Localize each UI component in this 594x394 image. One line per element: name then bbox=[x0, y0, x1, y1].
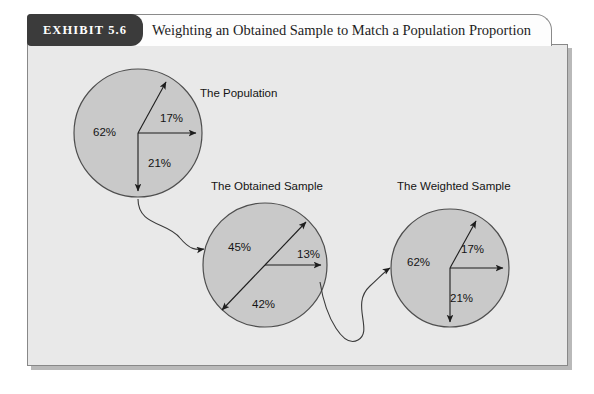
exhibit-panel bbox=[27, 44, 568, 366]
pie-population-slice-62: 62% bbox=[93, 126, 116, 138]
pie-population-slice-17: 17% bbox=[160, 112, 183, 124]
pie-weighted-slice-62: 62% bbox=[407, 256, 430, 268]
pie-weighted-slice-21: 21% bbox=[450, 292, 473, 304]
pie-weighted-sample-title: The Weighted Sample bbox=[397, 180, 511, 192]
exhibit-figure: EXHIBIT 5.6 Weighting an Obtained Sample… bbox=[0, 0, 594, 394]
pie-obtained-slice-45: 45% bbox=[228, 241, 251, 253]
exhibit-title: Weighting an Obtained Sample to Match a … bbox=[152, 14, 531, 46]
pie-obtained-sample-title: The Obtained Sample bbox=[211, 180, 323, 192]
pie-weighted-slice-17: 17% bbox=[461, 243, 484, 255]
pie-population-title: The Population bbox=[200, 87, 277, 99]
pie-obtained-slice-13: 13% bbox=[297, 248, 320, 260]
exhibit-badge: EXHIBIT 5.6 bbox=[27, 14, 143, 46]
pie-population-slice-21: 21% bbox=[148, 157, 171, 169]
pie-obtained-slice-42: 42% bbox=[252, 298, 275, 310]
